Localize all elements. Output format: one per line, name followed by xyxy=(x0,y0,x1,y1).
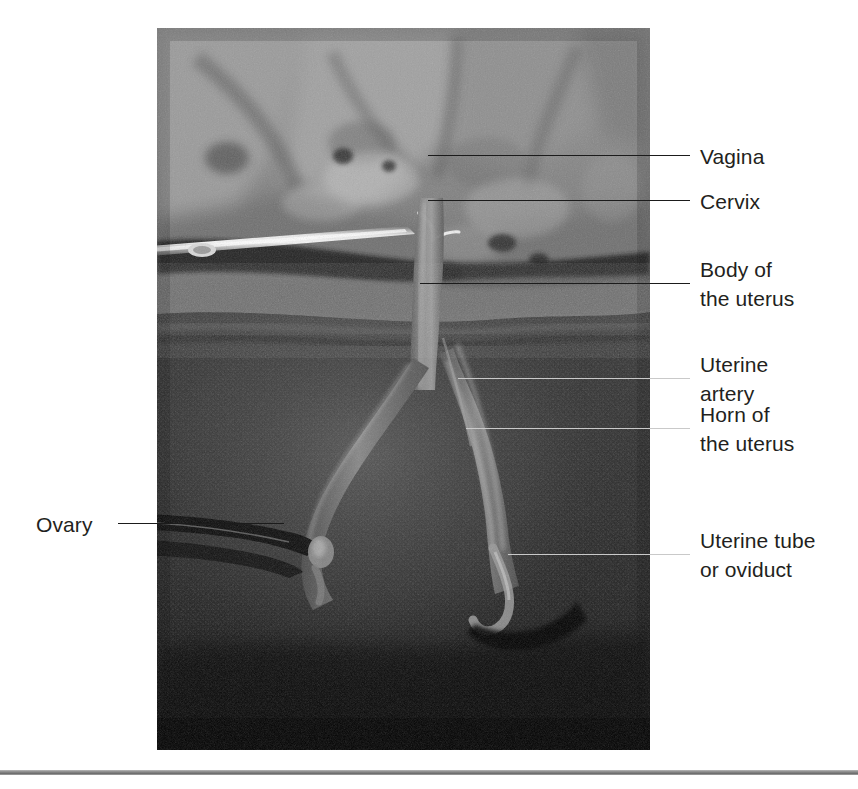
leader-line-vagina xyxy=(428,155,690,156)
label-horn-of-the-uterus: Horn of the uterus xyxy=(700,400,794,458)
figure-root: Vagina Cervix Body of the uterus Uterine… xyxy=(0,0,858,789)
leader-line-uterine-tube-or-oviduct xyxy=(508,554,690,555)
bottom-divider-rule xyxy=(0,770,858,775)
photograph-image xyxy=(157,28,650,750)
label-ovary: Ovary xyxy=(36,510,93,539)
label-uterine-tube-or-oviduct: Uterine tube or oviduct xyxy=(700,526,816,584)
leader-line-cervix xyxy=(428,200,690,201)
leader-line-horn-of-the-uterus xyxy=(466,428,690,429)
label-vagina: Vagina xyxy=(700,142,764,171)
anatomical-photograph xyxy=(157,28,650,750)
leader-line-ovary xyxy=(118,523,284,524)
label-body-of-the-uterus: Body of the uterus xyxy=(700,255,794,313)
label-cervix: Cervix xyxy=(700,187,760,216)
leader-line-uterine-artery xyxy=(458,378,690,379)
leader-line-body-of-the-uterus xyxy=(420,283,690,284)
